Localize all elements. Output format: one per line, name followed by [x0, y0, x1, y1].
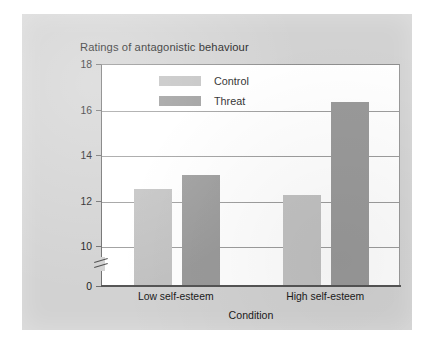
y-axis-tick-label: 16	[66, 104, 92, 115]
y-axis-tick-label: 14	[66, 150, 92, 161]
chart-title: Ratings of antagonistic behaviour	[80, 41, 249, 53]
x-axis-category-label: Low self-esteem	[138, 291, 214, 302]
x-axis-line	[101, 285, 401, 287]
y-axis-tick-label: 12	[66, 195, 92, 206]
legend-swatch-control	[159, 76, 201, 86]
x-axis-title: Condition	[229, 309, 274, 321]
y-axis-tick	[96, 246, 101, 247]
axis-break-icon	[94, 257, 109, 272]
bar-threat-low	[182, 175, 220, 286]
legend-item-control: Control	[159, 72, 283, 89]
y-axis-tick	[96, 286, 101, 287]
y-axis-tick	[96, 110, 101, 111]
x-axis-category-label: High self-esteem	[286, 291, 364, 302]
legend: ControlThreat	[159, 72, 283, 112]
figure-panel: Ratings of antagonistic behaviour 010121…	[22, 14, 412, 330]
legend-item-threat: Threat	[159, 92, 283, 109]
y-axis-tick-label: 18	[66, 59, 92, 70]
bar-control-high	[283, 195, 321, 286]
y-axis-tick-label: 0	[66, 281, 92, 292]
scanned-page: Ratings of antagonistic behaviour 010121…	[0, 0, 434, 346]
y-axis-tick	[96, 155, 101, 156]
legend-label: Control	[214, 75, 249, 87]
bar-control-low	[134, 189, 172, 286]
legend-label: Threat	[214, 95, 245, 107]
legend-swatch-threat	[159, 96, 201, 106]
y-axis-tick	[96, 64, 101, 65]
y-axis-tick	[96, 201, 101, 202]
y-axis-tick-labels: 01012141618	[66, 14, 92, 346]
bar-threat-high	[331, 102, 369, 286]
y-axis-tick-label: 10	[66, 241, 92, 252]
